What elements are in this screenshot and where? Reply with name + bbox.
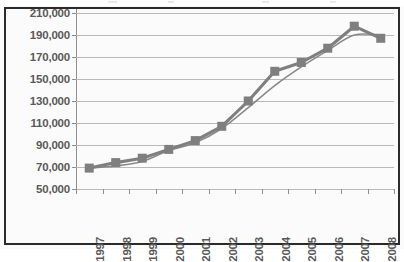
- x-axis-tick: [209, 189, 210, 194]
- x-axis-tick: [315, 189, 316, 194]
- x-axis-tick-label: 2005: [306, 237, 318, 262]
- data-point-marker: [85, 164, 94, 173]
- x-axis-tick-label: 2006: [333, 237, 345, 262]
- x-axis-tick: [394, 189, 395, 194]
- x-axis-tick: [156, 189, 157, 194]
- chart-frame: 210,000190,000170,000150,000130,000110,0…: [4, 7, 400, 245]
- plot-wrapper: 210,000190,000170,000150,000130,000110,0…: [6, 9, 398, 243]
- y-axis-tick-label: 90,000: [36, 139, 70, 151]
- data-point-marker: [323, 44, 332, 53]
- x-axis-tick-label: 1998: [121, 237, 133, 262]
- data-point-marker: [111, 158, 120, 167]
- x-axis-tick-label: 2001: [200, 237, 212, 262]
- x-axis-tick-label: 2004: [280, 237, 292, 262]
- data-point-marker: [138, 154, 147, 163]
- x-axis-tick: [103, 189, 104, 194]
- x-axis-tick-label: 2008: [386, 237, 398, 262]
- data-point-marker: [191, 136, 200, 145]
- x-axis-tick: [368, 189, 369, 194]
- data-point-marker: [164, 145, 173, 154]
- series-2-smooth-line: [89, 34, 381, 168]
- x-axis-tick-label: 2007: [359, 237, 371, 262]
- x-axis-tick: [288, 189, 289, 194]
- x-axis-tick-labels: 1997199819992000200120022003200420052006…: [76, 195, 394, 241]
- data-point-marker: [270, 67, 279, 76]
- y-axis-tick-label: 50,000: [36, 183, 70, 195]
- x-axis-tick-label: 2003: [253, 237, 265, 262]
- data-point-marker: [217, 122, 226, 131]
- x-axis-tick-label: 2002: [227, 237, 239, 262]
- x-axis-tick: [182, 189, 183, 194]
- series-layer: [76, 13, 394, 189]
- y-axis-tick-label: 130,000: [30, 95, 70, 107]
- x-axis-tick: [262, 189, 263, 194]
- y-axis-tick-label: 170,000: [30, 51, 70, 63]
- data-point-marker: [244, 97, 253, 106]
- y-axis-tick-label: 150,000: [30, 73, 70, 85]
- series-1-thick-line: [89, 26, 381, 168]
- x-axis-tick: [235, 189, 236, 194]
- data-point-marker: [376, 34, 385, 43]
- x-axis-tick: [341, 189, 342, 194]
- x-axis-tick-label: 2000: [174, 237, 186, 262]
- x-axis-tick-label: 1997: [94, 237, 106, 262]
- y-axis-tick-label: 70,000: [36, 161, 70, 173]
- data-point-marker: [297, 58, 306, 67]
- data-point-marker: [350, 22, 359, 31]
- x-axis-tick: [129, 189, 130, 194]
- x-axis-tick: [76, 189, 77, 194]
- y-axis-tick-label: 190,000: [30, 29, 70, 41]
- y-axis-tick-label: 110,000: [30, 117, 70, 129]
- y-axis-tick-labels: 210,000190,000170,000150,000130,000110,0…: [6, 9, 72, 243]
- scan-artifact-strip: [0, 0, 404, 6]
- y-axis-tick-label: 210,000: [30, 7, 70, 19]
- series-1-markers: [85, 22, 386, 173]
- plot-area: [76, 13, 394, 189]
- x-axis-tick-label: 1999: [147, 237, 159, 262]
